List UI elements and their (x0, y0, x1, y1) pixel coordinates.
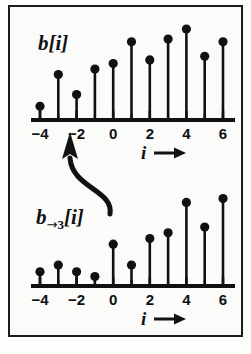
top-signal-label: b[i] (38, 31, 68, 55)
stem-marker (72, 90, 81, 99)
stem-marker (200, 52, 209, 61)
stem-marker (35, 102, 44, 111)
figure-frame: −4−20246 b[i] i −4−20246 b→3[i] i (8, 5, 243, 337)
stem-marker (127, 261, 136, 270)
x-tick-label: −4 (31, 291, 49, 308)
x-tick-label: −4 (31, 125, 49, 142)
stem-marker (164, 34, 173, 43)
stem-marker (200, 223, 209, 232)
stem-marker (54, 261, 63, 270)
x-tick-label: 4 (182, 125, 191, 142)
stem-marker (109, 240, 118, 249)
stem-marker (164, 228, 173, 237)
x-tick-label: 0 (109, 291, 117, 308)
x-tick-label: 2 (146, 291, 154, 308)
stem-marker (90, 64, 99, 73)
bottom-stem-plot: −4−20246 b→3[i] i (10, 167, 241, 339)
top-tick-labels: −4−20246 (31, 125, 227, 142)
stem-marker (218, 194, 227, 203)
stem-marker (127, 37, 136, 46)
stem-marker (145, 55, 154, 64)
stem-marker (54, 70, 63, 79)
stem-marker (145, 234, 154, 243)
x-tick-label: 2 (146, 125, 154, 142)
stem-marker (72, 267, 81, 276)
stem-marker (109, 59, 118, 68)
bottom-xaxis-var: i (141, 308, 147, 329)
x-tick-label: −2 (68, 291, 85, 308)
stem-marker (182, 198, 191, 207)
x-tick-label: 6 (219, 125, 227, 142)
top-xaxis-arrow-icon (154, 148, 186, 159)
stem-marker (218, 37, 227, 46)
stem-marker (90, 272, 99, 281)
bottom-signal-label: b→3[i] (36, 205, 84, 232)
stem-marker (182, 24, 191, 33)
x-tick-label: −2 (68, 125, 85, 142)
top-stem-plot: −4−20246 b[i] i (10, 7, 241, 167)
stem-marker (35, 267, 44, 276)
x-tick-label: 6 (219, 291, 227, 308)
x-tick-label: 4 (182, 291, 191, 308)
bottom-tick-labels: −4−20246 (31, 291, 227, 308)
top-xaxis-var: i (141, 142, 147, 163)
figure-root: −4−20246 b[i] i −4−20246 b→3[i] i (0, 0, 251, 354)
x-tick-label: 0 (109, 125, 117, 142)
bottom-xaxis-arrow-icon (154, 314, 186, 325)
